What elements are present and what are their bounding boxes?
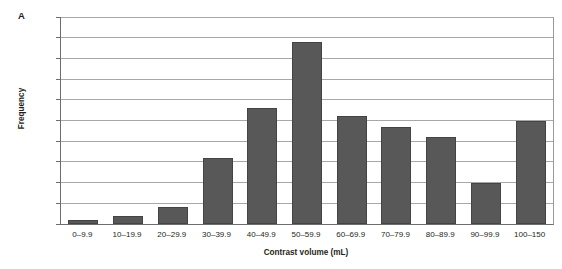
x-axis-tick-label: 90–99.9	[463, 230, 508, 239]
figure-panel-a: A Frequency 05101520253035404550 0–9.910…	[0, 0, 562, 269]
y-axis-tick-mark	[56, 37, 60, 38]
bar	[203, 158, 233, 224]
gridline	[61, 17, 553, 18]
y-axis-tick-mark	[56, 99, 60, 100]
panel-letter-label: A	[18, 10, 25, 21]
bar	[113, 216, 143, 224]
plot-area: 05101520253035404550	[60, 17, 554, 225]
x-axis-title: Contrast volume (mL)	[60, 248, 552, 257]
x-axis-tick-label: 30–39.9	[194, 230, 239, 239]
bar	[68, 220, 98, 224]
bar	[381, 127, 411, 224]
bar	[337, 116, 367, 224]
y-axis-tick-mark	[56, 120, 60, 121]
y-axis-tick-mark	[56, 224, 60, 225]
bar	[292, 42, 322, 224]
bar	[471, 183, 501, 224]
bar	[247, 108, 277, 224]
x-axis-tick-label: 50–59.9	[284, 230, 329, 239]
x-axis-tick-label: 100–150	[507, 230, 552, 239]
bar	[516, 121, 546, 225]
y-axis-tick-mark	[56, 17, 60, 18]
x-axis-tick-label: 70–79.9	[373, 230, 418, 239]
gridline	[61, 37, 553, 38]
y-axis-tick-mark	[56, 182, 60, 183]
x-axis-tick-label: 20–29.9	[149, 230, 194, 239]
y-axis-tick-mark	[56, 141, 60, 142]
bar	[158, 207, 188, 224]
y-axis-tick-mark	[56, 161, 60, 162]
y-axis-tick-mark	[56, 203, 60, 204]
x-axis-tick-label: 60–69.9	[328, 230, 373, 239]
y-axis-tick-mark	[56, 79, 60, 80]
x-axis-tick-label: 80–89.9	[418, 230, 463, 239]
x-axis-tick-label: 10–19.9	[105, 230, 150, 239]
y-axis-title: Frequency	[17, 59, 26, 159]
x-axis-tick-label: 40–49.9	[239, 230, 284, 239]
x-axis-tick-label: 0–9.9	[60, 230, 105, 239]
y-axis-tick-mark	[56, 58, 60, 59]
bar	[426, 137, 456, 224]
